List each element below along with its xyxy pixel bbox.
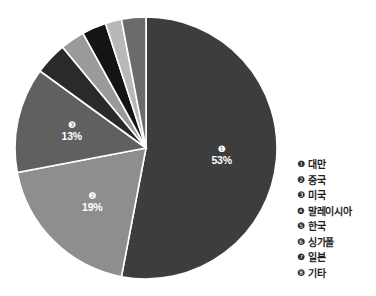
legend-label-2: 중국 — [308, 174, 325, 187]
legend-label-6: 싱가폴 — [308, 236, 334, 249]
legend-marker-icon-6: ❻ — [297, 236, 308, 249]
slice-marker-7: ❼ — [103, 0, 118, 7]
pie-chart-page: ❶53%❷19%❸13%❹4%❺3%❻3%❼2%❽3% ❶대만❷중국❸미국❹말레… — [0, 0, 376, 296]
legend-label-1: 대만 — [308, 158, 325, 171]
legend-marker-icon-3: ❸ — [297, 189, 308, 202]
pie-chart-svg — [14, 16, 278, 280]
chart-legend: ❶대만❷중국❸미국❹말레이시아❺한국❻싱가폴❼일본❽기타 — [297, 158, 373, 282]
legend-item-1[interactable]: ❶대만 — [297, 158, 373, 171]
slice-value-8: 3% — [125, 4, 140, 16]
slice-label-8: ❽3% — [125, 0, 140, 16]
legend-label-7: 일본 — [308, 251, 325, 264]
legend-label-3: 미국 — [308, 189, 325, 202]
legend-item-3[interactable]: ❸미국 — [297, 189, 373, 202]
legend-item-8[interactable]: ❽기타 — [297, 267, 373, 280]
legend-label-5: 한국 — [308, 220, 325, 233]
slice-marker-8: ❽ — [125, 0, 140, 4]
legend-marker-icon-4: ❹ — [297, 205, 308, 218]
pie-chart: ❶53%❷19%❸13%❹4%❺3%❻3%❼2%❽3% — [14, 16, 278, 280]
legend-item-4[interactable]: ❹말레이시아 — [297, 205, 373, 218]
legend-marker-icon-7: ❼ — [297, 251, 308, 264]
legend-label-4: 말레이시아 — [308, 205, 352, 218]
pie-slices-group — [15, 17, 277, 279]
legend-marker-icon-8: ❽ — [297, 267, 308, 280]
slice-marker-6: ❻ — [81, 5, 96, 15]
legend-item-7[interactable]: ❼일본 — [297, 251, 373, 264]
legend-label-8: 기타 — [308, 267, 325, 280]
legend-item-6[interactable]: ❻싱가폴 — [297, 236, 373, 249]
legend-item-5[interactable]: ❺한국 — [297, 220, 373, 233]
legend-marker-icon-1: ❶ — [297, 158, 308, 171]
legend-item-2[interactable]: ❷중국 — [297, 174, 373, 187]
legend-marker-icon-2: ❷ — [297, 174, 308, 187]
legend-marker-icon-5: ❺ — [297, 220, 308, 233]
